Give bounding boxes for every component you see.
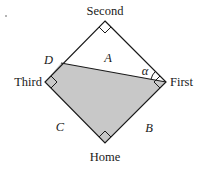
label-a: A bbox=[103, 51, 112, 65]
baseball-diamond-diagram: Second Third First Home D A α C B bbox=[0, 0, 202, 169]
angle-alpha-arc bbox=[151, 71, 155, 79]
label-first: First bbox=[170, 75, 193, 89]
label-alpha: α bbox=[142, 64, 149, 78]
label-home: Home bbox=[90, 150, 121, 164]
label-b: B bbox=[145, 121, 153, 135]
label-third: Third bbox=[14, 75, 43, 89]
label-d: D bbox=[43, 53, 53, 67]
stray-dot bbox=[5, 15, 7, 17]
right-angle-second bbox=[99, 27, 111, 33]
label-second: Second bbox=[87, 4, 125, 18]
label-c: C bbox=[56, 120, 65, 134]
